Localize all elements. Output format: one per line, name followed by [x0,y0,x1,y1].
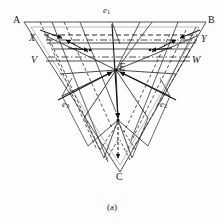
label-point-v: V [31,55,37,65]
label-point-w: W [192,55,200,65]
label-vector-e1: e1 [103,6,110,16]
label-vertex-a: A [13,15,20,25]
figure-caption: (a) [0,202,224,212]
figure-container: A B C X Y V W E e1 e2 e3 (a) [0,0,224,224]
label-vector-e3-sub: 3 [66,102,69,109]
label-vector-e1-sub: 1 [107,8,110,15]
label-vector-e2-sub: 2 [164,102,167,109]
label-point-x: X [29,33,35,43]
construction-lines-dashed-left [40,22,112,150]
label-point-e: E [119,62,125,72]
label-vector-e2: e2 [160,100,167,110]
label-vertex-b: B [208,15,215,25]
label-vertex-c: C [116,172,123,182]
label-vector-e3: e3 [62,100,69,110]
vector-e2-arrow [120,72,176,100]
triangle-outline [24,22,206,172]
label-point-y: Y [201,34,207,44]
